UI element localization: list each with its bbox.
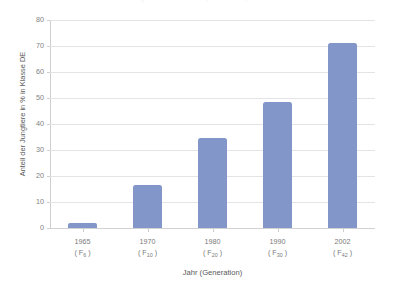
plot-area [50, 20, 375, 228]
y-axis-tick [47, 150, 50, 151]
bar-1965 [68, 223, 97, 228]
category-year: 1970 [140, 237, 156, 246]
x-axis-category-label: 2002( F42 ) [313, 236, 373, 259]
y-axis-tick [47, 98, 50, 99]
x-axis-category-label: 1980( F20 ) [183, 236, 243, 259]
x-axis-title: Jahr (Generation) [50, 268, 375, 277]
y-axis-tick [47, 228, 50, 229]
x-axis-tick [278, 229, 279, 232]
bar-2002 [328, 43, 357, 228]
bar-1970 [133, 185, 162, 228]
y-axis-tick [47, 176, 50, 177]
gridline [50, 124, 375, 125]
bar-1980 [198, 138, 227, 228]
y-axis-tick [47, 124, 50, 125]
y-axis-tick-label: 40 [28, 120, 44, 127]
y-axis-tick-label: 0 [28, 224, 44, 231]
gridline [50, 98, 375, 99]
category-generation: ( F42 ) [313, 247, 373, 259]
category-generation: ( F20 ) [183, 247, 243, 259]
gridline [50, 46, 375, 47]
x-axis-category-label: 1990( F30 ) [248, 236, 308, 259]
gridline [50, 20, 375, 21]
category-year: 1965 [75, 237, 91, 246]
chart-title-remnant: Anteil der Jungtiere in Klasse DE (Gener… [95, 0, 355, 2]
x-axis-category-label: 1970( F10 ) [118, 236, 178, 259]
y-axis-tick-label: 60 [28, 68, 44, 75]
y-axis-tick [47, 46, 50, 47]
category-generation: ( F6 ) [53, 247, 113, 259]
y-axis-tick [47, 72, 50, 73]
gridline [50, 72, 375, 73]
x-axis-tick [213, 229, 214, 232]
category-generation: ( F30 ) [248, 247, 308, 259]
x-axis-category-label: 1965( F6 ) [53, 236, 113, 259]
category-year: 1980 [205, 237, 221, 246]
y-axis-tick-label: 30 [28, 146, 44, 153]
x-axis-tick [83, 229, 84, 232]
y-axis-tick [47, 20, 50, 21]
category-generation: ( F10 ) [118, 247, 178, 259]
category-year: 2002 [335, 237, 351, 246]
y-axis-tick-label: 70 [28, 42, 44, 49]
y-axis-tick [47, 202, 50, 203]
x-axis-tick [148, 229, 149, 232]
bar-1990 [263, 102, 292, 228]
y-axis-tick-label: 50 [28, 94, 44, 101]
y-axis-title: Anteil der Jungtiere in % in Klasse DE [16, 0, 30, 228]
category-year: 1990 [270, 237, 286, 246]
y-axis-tick-label: 80 [28, 16, 44, 23]
y-axis-tick-label: 20 [28, 172, 44, 179]
bar-chart: Anteil der Jungtiere in Klasse DE (Gener… [0, 0, 394, 288]
y-axis-tick-label: 10 [28, 198, 44, 205]
x-axis-tick [343, 229, 344, 232]
